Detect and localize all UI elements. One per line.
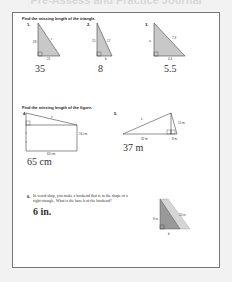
- figure-4: [26, 113, 86, 158]
- problem-5-number: 5.: [114, 111, 117, 116]
- problem-6-base-label: b: [168, 232, 170, 236]
- section2-instruction: Find the missing length of the figure.: [22, 105, 92, 110]
- problem-6-hypotenuse-label: 10 in.: [179, 213, 186, 217]
- problem-5-answer: 37 m: [123, 142, 143, 153]
- problem-3-hypotenuse-label: 7.3: [172, 36, 176, 40]
- problem-4-answer: 65 cm: [27, 156, 52, 167]
- problem-2-hypotenuse-label: 17: [107, 39, 110, 43]
- page-title: Pre-Assess and Practice Journal: [0, 0, 232, 6]
- section1-instruction: Find the missing length of the triangle.: [22, 16, 96, 21]
- problem-1-vertical-label: 28: [33, 40, 36, 44]
- problem-5-hypotenuse-label: x: [141, 117, 143, 121]
- problem-3-vertical-label: a: [149, 39, 151, 43]
- problem-1-hypotenuse-label: c: [51, 37, 53, 41]
- figure-5: [123, 113, 183, 138]
- problem-2-horizontal-label: b: [105, 57, 107, 61]
- problem-6-height-label: 8 in.: [153, 217, 159, 221]
- problem-6-number: 6.: [27, 194, 30, 199]
- problem-5-height-label: 15 m: [178, 121, 185, 125]
- problem-2-number: 2.: [87, 22, 90, 27]
- problem-2-answer: 8: [98, 63, 103, 74]
- triangle-3-figure: [154, 23, 189, 58]
- problem-1-answer: 35: [35, 63, 45, 74]
- problem-5-base-right-label: 8 m: [172, 137, 177, 141]
- problem-3-horizontal-label: 4.4: [168, 57, 172, 61]
- problem-6-text: In wood shop, you make a bookend that is…: [33, 193, 133, 203]
- problem-2-vertical-label: 15: [92, 39, 95, 43]
- problem-3-answer: 5.5: [164, 63, 177, 74]
- problem-1-number: 1.: [27, 22, 30, 27]
- problem-3-number: 3.: [145, 22, 148, 27]
- problem-4-hypotenuse-label: x: [51, 115, 53, 119]
- problem-6-answer: 6 in.: [33, 206, 51, 217]
- problem-4-side-label: 16 cm: [79, 132, 87, 136]
- bookend-figure: [160, 199, 195, 234]
- problem-1-horizontal-label: 21: [47, 57, 50, 61]
- problem-5-base-left-label: 32 m: [141, 137, 148, 141]
- worksheet: Find the missing length of the triangle.…: [12, 12, 220, 268]
